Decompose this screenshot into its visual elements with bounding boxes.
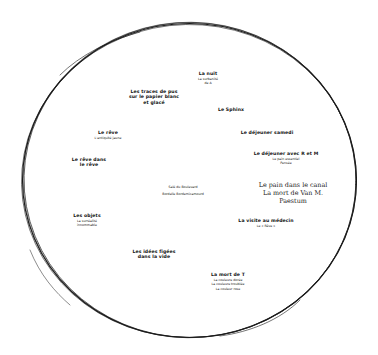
label-title: La nuit <box>198 71 218 76</box>
label-reve-dans-reve: Le rêve dans le rêve <box>72 157 106 168</box>
label-les-objets: Les objets La surréalité innommable <box>73 213 100 228</box>
label-title-line: le rêve <box>72 162 106 167</box>
hand-drawn-ellipse <box>0 0 378 355</box>
label-dejeuner-r-m: Le déjeuner avec R et M Le pain essentie… <box>254 151 319 166</box>
label-serif-line: La mort de Van M. <box>259 189 328 197</box>
label-serif-line: Paestum <box>259 197 328 205</box>
label-subtitle: Salé du Boulevard <box>162 186 204 190</box>
label-title: Le déjeuner samedi <box>241 130 294 135</box>
label-title-line: dans la vide <box>132 254 175 259</box>
label-le-reve: Le rêve L'antiquité jaune <box>95 130 122 141</box>
label-subtitle: L'antiquité jaune <box>95 137 122 141</box>
label-subtitle: Le « Rêve » <box>238 225 293 229</box>
label-la-nuit: La nuit La surbanité de A <box>198 71 218 86</box>
label-sphinx: Le Sphinx <box>218 107 244 112</box>
label-traces-de-pus: Les traces de pus sur le papier blanc et… <box>129 89 179 105</box>
label-visite-medecin: La visite au médecin Le « Rêve » <box>238 218 293 229</box>
label-title: Le Sphinx <box>218 107 244 112</box>
label-idees-figees: Les idées figées dans la vide <box>132 249 175 260</box>
label-serif-line: Le pain dans le canal <box>259 181 328 189</box>
label-center: Salé du Boulevard Bordelle Bordemicamour… <box>162 186 204 196</box>
label-dejeuner-samedi: Le déjeuner samedi <box>241 130 294 135</box>
label-pain-canal: Le pain dans le canal La mort de Van M. … <box>259 181 328 205</box>
label-title-line: et glacé <box>129 100 179 105</box>
label-subtitle: Bordelle Bordemicamourd <box>162 193 204 197</box>
label-subtitle: Pensée <box>254 162 319 166</box>
label-title: Le rêve <box>95 130 122 135</box>
label-subtitle: La couleur rose <box>211 288 245 292</box>
label-title: La mort de T <box>211 272 245 277</box>
label-subtitle: de A <box>198 82 218 86</box>
label-title-line: sur le papier blanc <box>129 94 179 99</box>
label-subtitle: innommable <box>73 224 100 228</box>
label-mort-de-t: La mort de T La couleure dorée La couleu… <box>211 272 245 291</box>
label-title: Le déjeuner avec R et M <box>254 151 319 156</box>
diagram-canvas: La nuit La surbanité de A Les traces de … <box>0 0 378 355</box>
label-title: La visite au médecin <box>238 218 293 223</box>
label-title: Les objets <box>73 213 100 218</box>
